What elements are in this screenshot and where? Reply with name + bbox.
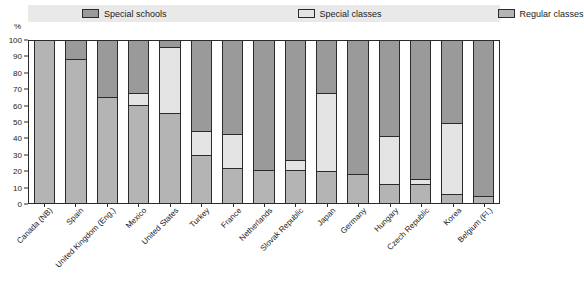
- bar-slot: [123, 41, 154, 203]
- x-axis-tick-label: Germany: [339, 206, 369, 236]
- stacked-bar[interactable]: [473, 41, 494, 203]
- stacked-bar[interactable]: [316, 41, 337, 203]
- bar-segment-special-classes: [192, 132, 211, 156]
- y-axis-tick-label: 30: [13, 150, 22, 159]
- bar-segment-regular-classes: [223, 169, 242, 203]
- x-axis-tick-label: United Kingdom (Eng.): [53, 206, 117, 270]
- plot-area: [28, 40, 500, 204]
- stacked-bar[interactable]: [97, 41, 118, 203]
- bar-segment-special-schools: [442, 41, 461, 124]
- stacked-bar[interactable]: [347, 41, 368, 203]
- x-axis-tick-label: Turkey: [188, 206, 211, 229]
- bar-segment-special-classes: [380, 137, 399, 186]
- bar-segment-regular-classes: [98, 98, 117, 203]
- bar-slot: [311, 41, 342, 203]
- stacked-bar[interactable]: [222, 41, 243, 203]
- bar-segment-regular-classes: [442, 195, 461, 203]
- x-axis-labels: Canada (NB)SpainUnited Kingdom (Eng.)Mex…: [28, 206, 500, 283]
- stacked-bar[interactable]: [253, 41, 274, 203]
- y-axis-tick-label: 100: [9, 36, 22, 45]
- x-axis-tick-label: Mexico: [124, 206, 148, 230]
- stacked-bar[interactable]: [379, 41, 400, 203]
- bar-segment-special-schools: [380, 41, 399, 137]
- legend-label: Special classes: [320, 9, 382, 19]
- bar-slot: [154, 41, 185, 203]
- bar-slot: [248, 41, 279, 203]
- bar-segment-regular-classes: [474, 197, 493, 203]
- bar-segment-special-schools: [317, 41, 336, 94]
- y-axis-tick-label: 0: [18, 200, 22, 209]
- y-axis-ticks: 0102030405060708090100: [0, 40, 28, 204]
- stacked-bar[interactable]: [410, 41, 431, 203]
- bar-segment-special-classes: [160, 48, 179, 114]
- bar-segment-regular-classes: [192, 156, 211, 203]
- bar-segment-special-schools: [129, 41, 148, 94]
- legend-item-2: Regular classes: [498, 9, 584, 19]
- bar-slot: [436, 41, 467, 203]
- bar-segment-special-schools: [66, 41, 85, 60]
- y-axis-tick-label: 40: [13, 134, 22, 143]
- legend-swatch-icon: [498, 9, 515, 18]
- bar-segment-regular-classes: [286, 171, 305, 203]
- legend-swatch-icon: [82, 9, 99, 18]
- bar-segment-special-schools: [192, 41, 211, 132]
- x-axis-tick-label: Spain: [65, 206, 86, 227]
- stacked-bar[interactable]: [441, 41, 462, 203]
- bar-slot: [468, 41, 499, 203]
- bar-segment-regular-classes: [254, 171, 273, 203]
- legend-label: Regular classes: [520, 9, 584, 19]
- bar-segment-special-schools: [474, 41, 493, 197]
- stacked-bar[interactable]: [34, 41, 55, 203]
- y-axis-tick-label: 70: [13, 85, 22, 94]
- bar-slot: [374, 41, 405, 203]
- y-axis-tick-label: 50: [13, 118, 22, 127]
- x-axis-tick-label: Japan: [316, 206, 338, 228]
- stacked-bar[interactable]: [128, 41, 149, 203]
- x-axis-tick-label: France: [219, 206, 243, 230]
- stacked-bar[interactable]: [191, 41, 212, 203]
- bar-segment-regular-classes: [348, 175, 367, 203]
- stacked-bar[interactable]: [285, 41, 306, 203]
- bar-segment-special-classes: [129, 94, 148, 105]
- legend-item-1: Special classes: [298, 9, 382, 19]
- bar-segment-special-classes: [317, 94, 336, 172]
- bar-segment-regular-classes: [66, 60, 85, 203]
- bar-segment-special-classes: [223, 135, 242, 169]
- bar-slot: [217, 41, 248, 203]
- legend-item-0: Special schools: [82, 9, 167, 19]
- bar-segment-regular-classes: [380, 185, 399, 203]
- y-axis-tick-label: 90: [13, 52, 22, 61]
- bar-segment-regular-classes: [35, 41, 54, 203]
- bar-slot: [29, 41, 60, 203]
- bar-slot: [280, 41, 311, 203]
- bar-segment-regular-classes: [317, 172, 336, 203]
- bar-segment-special-classes: [442, 124, 461, 195]
- bar-slot: [92, 41, 123, 203]
- stacked-bar[interactable]: [159, 41, 180, 203]
- bar-segment-special-schools: [411, 41, 430, 180]
- stacked-bar[interactable]: [65, 41, 86, 203]
- chart-legend: Special schoolsSpecial classesRegular cl…: [28, 5, 500, 22]
- bar-slot: [405, 41, 436, 203]
- bar-slot: [342, 41, 373, 203]
- bar-slot: [186, 41, 217, 203]
- x-axis-tick-label: Hungary: [372, 206, 400, 234]
- x-axis-tick-label: Canada (NB): [15, 206, 54, 245]
- legend-swatch-icon: [298, 9, 315, 18]
- bar-segment-regular-classes: [129, 106, 148, 203]
- y-axis-tick-label: 20: [13, 167, 22, 176]
- bar-segment-special-schools: [254, 41, 273, 171]
- bar-segment-special-schools: [98, 41, 117, 98]
- bar-segment-special-classes: [286, 161, 305, 171]
- y-axis-unit-label: %: [14, 22, 21, 31]
- bar-slot: [60, 41, 91, 203]
- y-axis-tick-label: 80: [13, 68, 22, 77]
- bar-segment-special-schools: [348, 41, 367, 175]
- legend-label: Special schools: [104, 9, 167, 19]
- bar-segment-special-schools: [223, 41, 242, 135]
- bars-container: [29, 41, 499, 203]
- bar-segment-special-schools: [286, 41, 305, 161]
- y-axis-tick-label: 60: [13, 101, 22, 110]
- bar-segment-regular-classes: [411, 185, 430, 203]
